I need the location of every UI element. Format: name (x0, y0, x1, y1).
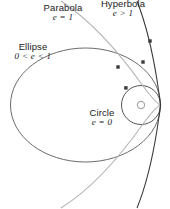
label-circle: Circle e = 0 (78, 108, 126, 128)
focus-marker-icon (137, 101, 144, 108)
label-parabola: Parabola e = 1 (34, 3, 92, 23)
marker-dot-parabola (141, 60, 144, 63)
label-ellipse: Ellipse 0 < e < 1 (2, 42, 64, 62)
parabola-curve (61, 1, 161, 208)
marker-dot-circle (124, 86, 127, 89)
marker-dot-ellipse (116, 65, 119, 68)
label-hyperbola: Hyperbola e > 1 (92, 0, 154, 19)
label-hyperbola-eccentricity: e > 1 (92, 9, 154, 19)
label-parabola-eccentricity: e = 1 (34, 13, 92, 23)
label-circle-eccentricity: e = 0 (78, 118, 126, 128)
marker-dot-hyperbola (148, 39, 151, 42)
label-ellipse-eccentricity: 0 < e < 1 (2, 52, 64, 62)
conic-sections-figure: Parabola e = 1 Hyperbola e > 1 Ellipse 0… (0, 0, 170, 209)
conic-curves-svg (0, 0, 170, 209)
